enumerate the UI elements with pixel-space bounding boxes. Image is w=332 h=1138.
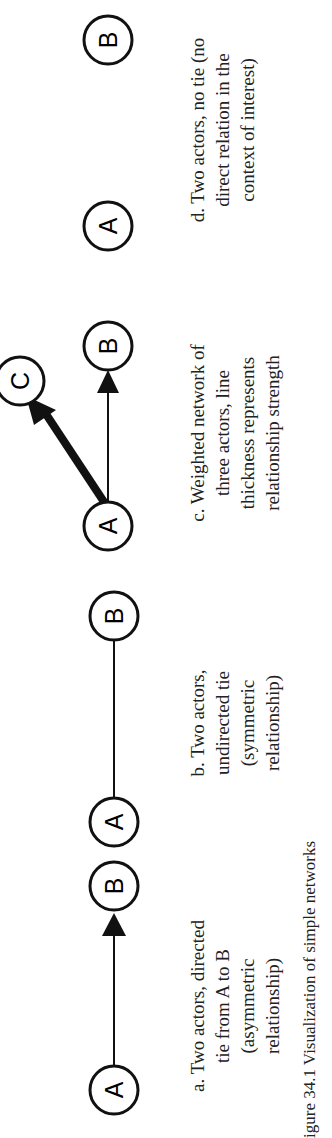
thick-edge <box>42 408 108 508</box>
panel-b-diagram: A B <box>90 592 138 846</box>
caption-line: tie from A to B <box>210 876 235 1136</box>
caption-line: (symmetric <box>235 598 260 848</box>
caption-line: direct relation in the <box>210 0 235 260</box>
svg-text:A: A <box>94 517 122 534</box>
svg-text:B: B <box>100 878 128 895</box>
node-b: B <box>90 592 138 640</box>
caption-line: b. Two actors, <box>185 598 210 848</box>
panel-b-caption: b. Two actors, undirected tie (symmetric… <box>185 598 285 848</box>
svg-text:A: A <box>94 217 122 234</box>
caption-line: three actors, line <box>210 308 235 558</box>
panel-d-diagram: A B <box>84 16 132 250</box>
svg-text:B: B <box>94 338 122 355</box>
caption-line: relationship) <box>260 876 285 1136</box>
svg-text:B: B <box>94 32 122 49</box>
caption-line: relationship) <box>260 598 285 848</box>
panel-a-caption: a. Two actors, directed tie from A to B … <box>185 876 285 1136</box>
figure-caption: igure 34.1 Visualization of simple netwo… <box>300 841 320 1138</box>
svg-text:C: C <box>6 372 34 390</box>
arrowhead-icon <box>102 913 126 936</box>
svg-text:A: A <box>100 813 128 830</box>
svg-text:B: B <box>100 608 128 625</box>
panel-c-caption: c. Weighted network of three actors, lin… <box>185 308 285 558</box>
caption-line: context of interest) <box>235 0 260 260</box>
caption-line: undirected tie <box>210 598 235 848</box>
node-b: B <box>84 16 132 64</box>
caption-line: d. Two actors, no tie (no <box>185 0 210 260</box>
caption-line: a. Two actors, directed <box>185 876 210 1136</box>
caption-line: thickness represents <box>235 308 260 558</box>
node-a: A <box>84 202 132 250</box>
panel-a-diagram: A B <box>90 862 138 1114</box>
node-c: C <box>0 357 44 405</box>
caption-line: relationship strength <box>260 308 285 558</box>
node-b: B <box>90 862 138 910</box>
panel-d-caption: d. Two actors, no tie (no direct relatio… <box>185 0 260 260</box>
caption-line: c. Weighted network of <box>185 308 210 558</box>
node-b: B <box>84 322 132 370</box>
node-a: A <box>90 798 138 846</box>
caption-line: (asymmetric <box>235 876 260 1136</box>
panel-c-diagram: A B C <box>0 322 132 550</box>
figure: A B A B A <box>0 0 332 1138</box>
node-a: A <box>90 1066 138 1114</box>
node-a: A <box>84 502 132 550</box>
svg-text:A: A <box>100 1081 128 1098</box>
arrowhead-icon <box>97 370 119 393</box>
